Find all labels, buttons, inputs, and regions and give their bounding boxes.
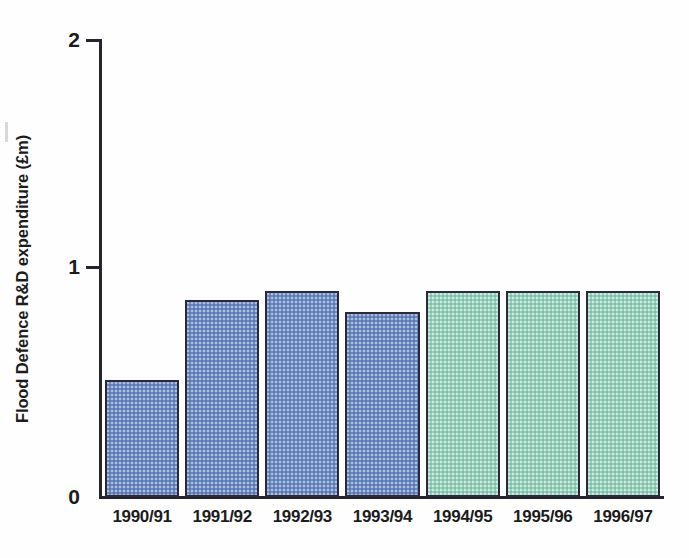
x-axis-label-1994-95: 1994/95 (423, 507, 503, 527)
y-tick-label-0: 0 (52, 486, 80, 507)
y-axis-tick-1 (86, 266, 100, 269)
x-axis-label-1995-96: 1995/96 (503, 507, 583, 527)
y-axis-title: Flood Defence R&D expenditure (£m) (0, 0, 44, 558)
x-axis-label-1990-91: 1990/91 (102, 507, 182, 527)
x-axis-label-1993-94: 1993/94 (342, 507, 422, 527)
x-axis-label-1991-92: 1991/92 (182, 507, 262, 527)
y-tick-label-1: 1 (52, 256, 80, 277)
x-axis-label-1996-97: 1996/97 (583, 507, 663, 527)
bar-1993-94 (345, 312, 419, 497)
bar-1995-96 (506, 291, 580, 497)
x-axis-labels: 1990/911991/921992/931993/941994/951995/… (102, 507, 663, 539)
bar-1996-97 (586, 291, 660, 497)
bar-1991-92 (185, 300, 259, 497)
bar-chart: Flood Defence R&D expenditure (£m) 2 1 0… (0, 0, 689, 558)
x-axis-label-1992-93: 1992/93 (262, 507, 342, 527)
plot-area (102, 39, 663, 497)
bar-1992-93 (265, 291, 339, 497)
bar-1994-95 (426, 291, 500, 497)
y-axis-tick-2 (86, 39, 100, 42)
bar-1990-91 (105, 380, 179, 497)
y-tick-label-2: 2 (52, 29, 80, 50)
